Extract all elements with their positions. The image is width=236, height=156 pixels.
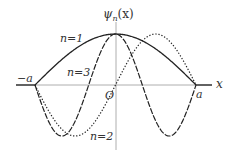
curve-label-n1: n=1 — [60, 32, 83, 45]
left-bound-label: −a — [17, 72, 33, 85]
wavefunction-diagram: ψn(x) x O −a a n=1 n=3 n=2 — [0, 0, 236, 156]
right-bound-label: a — [196, 88, 203, 101]
curve-label-n2: n=2 — [90, 130, 113, 143]
y-axis-label: ψn(x) — [103, 7, 134, 23]
curve-label-n3: n=3 — [67, 66, 90, 79]
origin-label: O — [105, 89, 114, 102]
x-axis-label: x — [216, 77, 223, 91]
